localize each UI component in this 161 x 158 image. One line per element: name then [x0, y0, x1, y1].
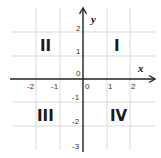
y-axis-label: y [89, 13, 96, 25]
y-tick-label: -2 [72, 117, 80, 126]
x-tick-label: -2 [27, 82, 35, 91]
y-tick-label: 2 [76, 24, 81, 33]
x-axis-label: x [137, 62, 144, 74]
x-tick-label: 0 [85, 82, 90, 91]
x-tick-label: 1 [108, 82, 113, 91]
x-tick-label: -1 [51, 82, 59, 91]
y-tick-label: 1 [76, 47, 81, 56]
axes [10, 8, 155, 152]
y-tick-label: -1 [72, 93, 80, 102]
x-tick-label: 2 [131, 82, 136, 91]
y-tick-label: -3 [72, 142, 80, 151]
quadrant-label-ii: II [40, 37, 51, 55]
quadrant-label-i: I [114, 37, 120, 55]
y-tick-label: 0 [76, 69, 81, 78]
quadrant-label-iv: IV [110, 107, 128, 125]
coordinate-plane: x y -2 -1 0 1 2 2 1 0 -1 -2 -3 I II III … [0, 0, 161, 158]
quadrant-label-iii: III [37, 107, 54, 125]
